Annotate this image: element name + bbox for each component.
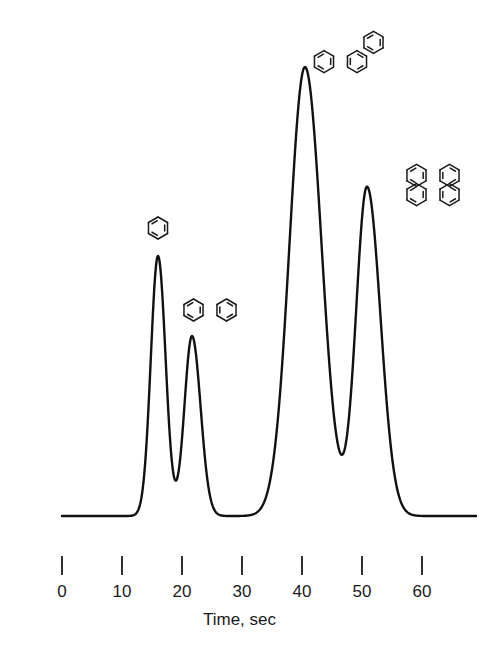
x-axis-tick-label: 20 xyxy=(160,582,204,602)
aromatic-bond-mark xyxy=(152,232,157,235)
bond xyxy=(374,31,384,37)
naphthalene-structure-icon xyxy=(184,299,236,321)
phenanthrene-structure-icon xyxy=(314,31,383,72)
aromatic-bond-mark xyxy=(368,47,373,50)
aromatic-bond-mark xyxy=(318,66,323,69)
aromatic-bond-mark xyxy=(411,180,416,183)
aromatic-bond-mark xyxy=(152,221,157,224)
bond xyxy=(194,299,204,305)
bond xyxy=(217,299,227,305)
x-axis-tick-label: 0 xyxy=(40,582,84,602)
x-axis-title-text: Time, sec xyxy=(203,610,276,629)
x-axis-tick-label: 50 xyxy=(340,582,384,602)
aromatic-bond-mark xyxy=(411,199,416,202)
bond xyxy=(347,51,357,57)
chromatogram-plot xyxy=(0,0,495,656)
bond xyxy=(158,234,168,240)
bond xyxy=(440,200,450,206)
aromatic-bond-mark xyxy=(450,199,455,202)
chromatogram-trace xyxy=(62,67,476,516)
x-axis-title: Time, sec xyxy=(0,610,495,630)
aromatic-bond-mark xyxy=(450,180,455,183)
aromatic-bond-mark xyxy=(318,54,323,57)
aromatic-bond-mark xyxy=(450,168,455,171)
aromatic-bond-mark xyxy=(358,66,363,69)
bond xyxy=(440,164,450,170)
aromatic-bond-mark xyxy=(188,303,193,306)
bond xyxy=(417,200,427,206)
molecular-structures xyxy=(148,31,459,321)
chromatogram-figure: Recorder response 0102030405060 Time, se… xyxy=(0,0,495,656)
aromatic-bond-mark xyxy=(411,168,416,171)
aromatic-bond-mark xyxy=(368,35,373,38)
bond xyxy=(324,51,334,57)
aromatic-bond-mark xyxy=(450,187,455,190)
aromatic-bond-mark xyxy=(227,303,232,306)
bond xyxy=(194,316,204,322)
bond xyxy=(217,316,227,322)
bond xyxy=(417,164,427,170)
pyrene-structure-icon xyxy=(407,164,459,205)
bond xyxy=(347,67,357,73)
aromatic-bond-mark xyxy=(227,314,232,317)
x-axis-tick-label: 30 xyxy=(220,582,264,602)
x-axis-tick-label: 40 xyxy=(280,582,324,602)
x-axis-tick-label: 10 xyxy=(100,582,144,602)
x-axis-tick-label: 60 xyxy=(400,582,444,602)
bond xyxy=(374,48,384,54)
x-axis-ticks xyxy=(62,556,422,575)
bond xyxy=(324,67,334,73)
aromatic-bond-mark xyxy=(411,187,416,190)
aromatic-bond-mark xyxy=(358,54,363,57)
bond xyxy=(158,217,168,223)
benzene-structure-icon xyxy=(148,217,167,239)
aromatic-bond-mark xyxy=(188,314,193,317)
